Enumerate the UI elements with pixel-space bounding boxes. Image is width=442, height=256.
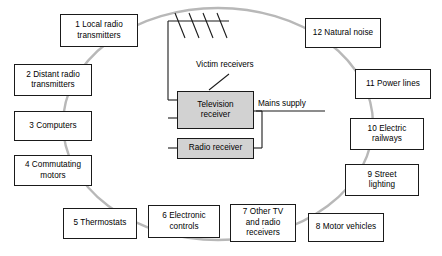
source-node-10-label: 10 Electric railways [368,124,407,145]
pointer-arrow-icon [209,74,229,90]
source-node-3[interactable]: 3 Computers [14,111,92,141]
source-node-1-label: 1 Local radio transmitters [75,20,123,41]
antenna-icon [168,13,229,100]
source-node-4-label: 4 Commutating motors [25,160,81,181]
victim-node-television[interactable]: Television receiver [177,91,254,129]
source-node-8-label: 8 Motor vehicles [316,222,376,233]
source-node-7-label: 7 Other TV and radio receivers [243,207,283,239]
source-node-5-label: 5 Thermostats [74,218,127,229]
source-node-12[interactable]: 12 Natural noise [305,18,381,48]
antenna-feed-lines [168,100,177,148]
source-node-6[interactable]: 6 Electronic controls [148,205,220,238]
source-node-2-label: 2 Distant radio transmitters [26,70,80,91]
victim-node-radio[interactable]: Radio receiver [177,138,254,159]
source-node-4[interactable]: 4 Commutating motors [14,155,92,186]
mains-supply-caption: Mains supply [258,99,306,108]
source-node-6-label: 6 Electronic controls [162,211,205,232]
victim-node-television-label: Television receiver [197,100,233,121]
source-node-10[interactable]: 10 Electric railways [350,118,424,150]
source-node-11-label: 11 Power lines [366,79,420,90]
source-node-9-label: 9 Street lighting [367,170,396,191]
source-node-3-label: 3 Computers [29,121,76,132]
emc-interference-diagram: 1 Local radio transmitters 2 Distant rad… [0,0,442,256]
victim-receivers-caption: Victim receivers [196,60,254,69]
source-node-1[interactable]: 1 Local radio transmitters [60,14,138,47]
source-node-12-label: 12 Natural noise [313,28,373,39]
source-node-11[interactable]: 11 Power lines [355,69,431,99]
source-node-5[interactable]: 5 Thermostats [63,208,137,239]
victim-node-radio-label: Radio receiver [189,143,243,154]
mains-supply-lines [254,111,325,148]
source-node-9[interactable]: 9 Street lighting [345,164,419,196]
source-node-7[interactable]: 7 Other TV and radio receivers [230,204,296,242]
source-node-8[interactable]: 8 Motor vehicles [308,213,384,242]
source-node-2[interactable]: 2 Distant radio transmitters [14,64,92,96]
